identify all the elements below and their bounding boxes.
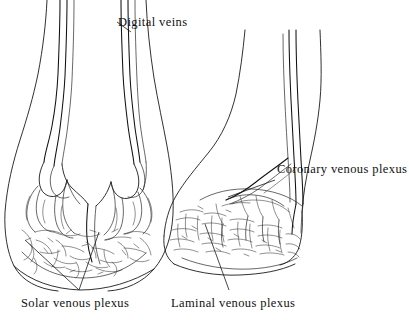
leader-solar-left — [25, 240, 79, 290]
lateral-view-figure — [164, 30, 321, 290]
leader-coronary — [228, 180, 275, 197]
figure-canvas: Digital veins Coronary venous plexus Sol… — [0, 0, 409, 320]
label-laminal-venous-plexus: Laminal venous plexus — [171, 297, 295, 310]
dorsal-view-figure — [5, 0, 173, 291]
label-solar-venous-plexus: Solar venous plexus — [21, 297, 129, 310]
label-digital-veins: Digital veins — [118, 16, 187, 29]
anatomical-illustration — [0, 0, 409, 320]
leader-solar-right — [79, 232, 99, 290]
label-coronary-venous-plexus: Coronary venous plexus — [277, 163, 407, 176]
